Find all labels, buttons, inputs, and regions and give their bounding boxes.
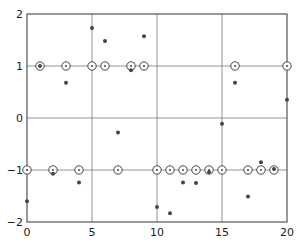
received-dot-marker bbox=[38, 64, 42, 68]
symbol-center-dot bbox=[143, 65, 145, 67]
received-dot-marker bbox=[103, 39, 107, 43]
received-dot-marker bbox=[142, 34, 146, 38]
received-dot-marker bbox=[285, 98, 289, 102]
received-dot-marker bbox=[194, 181, 198, 185]
symbol-center-dot bbox=[234, 65, 236, 67]
received-dot-marker bbox=[207, 170, 211, 174]
received-dot-marker bbox=[168, 211, 172, 215]
received-dot-marker bbox=[51, 172, 55, 176]
received-dot-marker bbox=[220, 122, 224, 126]
received-dot-marker bbox=[129, 68, 133, 72]
x-tick-label: 10 bbox=[150, 226, 164, 239]
gridlines bbox=[27, 14, 287, 222]
received-dot-marker bbox=[64, 81, 68, 85]
received-dot-marker bbox=[233, 81, 237, 85]
symbol-center-dot bbox=[117, 169, 119, 171]
y-tick-label: 0 bbox=[16, 112, 23, 125]
symbol-center-dot bbox=[169, 169, 171, 171]
symbol-center-dot bbox=[104, 65, 106, 67]
symbol-center-dot bbox=[260, 169, 262, 171]
received-dot-marker bbox=[181, 180, 185, 184]
symbol-center-dot bbox=[26, 169, 28, 171]
symbol-center-dot bbox=[195, 169, 197, 171]
received-dot-marker bbox=[77, 180, 81, 184]
received-dot-marker bbox=[246, 195, 250, 199]
x-tick-label: 15 bbox=[215, 226, 229, 239]
y-tick-label: 2 bbox=[16, 8, 23, 21]
symbol-center-dot bbox=[156, 169, 158, 171]
symbol-center-dot bbox=[247, 169, 249, 171]
symbol-center-dot bbox=[78, 169, 80, 171]
y-tick-label: 1 bbox=[16, 60, 23, 73]
symbol-center-dot bbox=[286, 65, 288, 67]
symbol-center-dot bbox=[52, 169, 54, 171]
x-tick-label: 20 bbox=[280, 226, 294, 239]
y-tick-label: −1 bbox=[7, 164, 23, 177]
x-tick-label: 0 bbox=[24, 226, 31, 239]
received-dot-marker bbox=[259, 160, 263, 164]
received-dot-marker bbox=[90, 26, 94, 30]
symbol-center-dot bbox=[65, 65, 67, 67]
symbol-center-dot bbox=[221, 169, 223, 171]
symbol-center-dot bbox=[130, 65, 132, 67]
x-axis-ticks: 05101520 bbox=[24, 226, 295, 239]
x-tick-label: 5 bbox=[89, 226, 96, 239]
y-axis-ticks: 210−1−2 bbox=[7, 8, 23, 229]
received-dot-marker bbox=[25, 199, 29, 203]
symbol-center-dot bbox=[182, 169, 184, 171]
received-dot-marker bbox=[272, 167, 276, 171]
y-tick-label: −2 bbox=[7, 216, 23, 229]
scatter-chart: 210−1−2 05101520 bbox=[0, 0, 304, 246]
received-dot-marker bbox=[155, 205, 159, 209]
received-dot-marker bbox=[116, 131, 120, 135]
symbol-center-dot bbox=[91, 65, 93, 67]
